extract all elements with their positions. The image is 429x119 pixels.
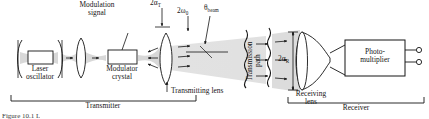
output-terminal-2-icon: [416, 59, 421, 64]
label-photomultiplier: Photo- multiplier: [346, 48, 404, 64]
receiver-coupling: [330, 45, 345, 75]
output-terminal-1-icon: [416, 47, 421, 52]
alpha-r-prefix: 2α: [278, 54, 286, 63]
modulator-crystal-line2: crystal: [112, 72, 132, 81]
laser-oscillator-line2: oscillator: [26, 72, 54, 81]
modulation-signal-line2: signal: [88, 8, 106, 17]
label-alpha-t: 2αT: [150, 0, 161, 7]
label-modulator-crystal: Modulator crystal: [94, 65, 150, 81]
label-transmission-path: Transmission path: [246, 28, 263, 94]
figure-laser-rangefinder-schematic: Modulation signal 2αT 2ω0 θbeam Laser os…: [0, 0, 429, 119]
figure-caption-cut: Figure 10.1 L: [2, 112, 40, 119]
transmission-path-line2: path: [254, 28, 262, 94]
collimating-lens-icon: [77, 38, 86, 78]
receiving-lens-line2: lens: [305, 97, 317, 106]
laser-oscillator-box: [28, 51, 53, 64]
alpha-t-pointer: [155, 8, 170, 27]
omega-zero-sub: 0: [186, 10, 189, 16]
receiving-lens-icon: [296, 32, 330, 90]
label-modulation-signal: Modulation signal: [66, 1, 128, 17]
transmitting-lens-icon: [160, 33, 172, 85]
theta-beam-pointer: [186, 16, 228, 58]
label-transmitter-group: Transmitter: [86, 102, 121, 110]
label-laser-oscillator: Laser oscillator: [13, 65, 67, 81]
alpha-t-sub: T: [158, 2, 161, 8]
omega-zero-prefix: 2ω: [177, 6, 186, 15]
label-alpha-r: 2αR: [278, 55, 289, 63]
photomultiplier-line2: multiplier: [360, 55, 390, 64]
label-omega-zero: 2ω0: [177, 7, 188, 15]
alpha-t-prefix: 2α: [150, 0, 158, 7]
label-receiver-group: Receiver: [343, 104, 370, 112]
label-receiving-lens: Receiving lens: [286, 90, 336, 106]
label-theta-beam: θbeam: [204, 4, 219, 12]
transmission-path-line1: Transmission: [245, 41, 254, 81]
alpha-r-sub: R: [286, 58, 289, 64]
label-transmitting-lens: Transmitting lens: [171, 87, 224, 95]
theta-beam-sub: beam: [208, 7, 219, 13]
modulator-crystal-box: [108, 33, 137, 64]
